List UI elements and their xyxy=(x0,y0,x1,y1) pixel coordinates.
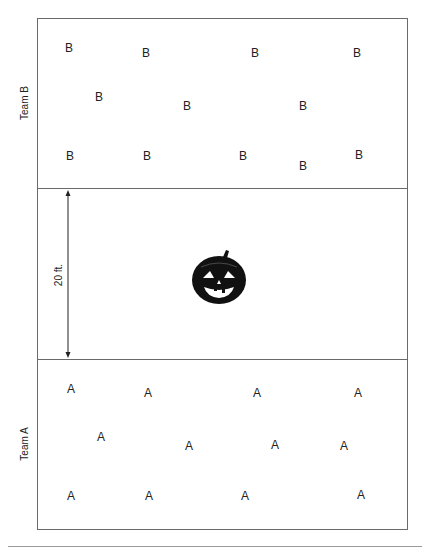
distance-arrow-icon xyxy=(66,190,71,358)
jack-o-lantern-icon xyxy=(192,250,246,304)
page-rule xyxy=(8,546,422,547)
center-zone-graphics xyxy=(0,0,429,548)
